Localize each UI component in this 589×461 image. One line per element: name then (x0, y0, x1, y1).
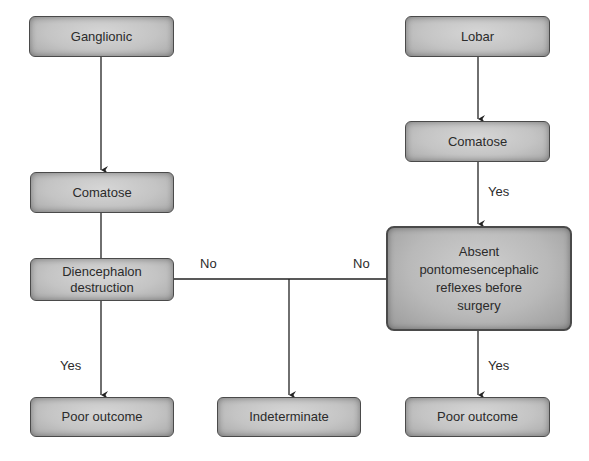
edge-label-absent-yes: Yes (488, 358, 509, 373)
edge-label-diencephalon-no: No (200, 256, 217, 271)
node-absent-label-line3: reflexes before (436, 279, 522, 297)
node-diencephalon-destruction: Diencephalon destruction (30, 258, 174, 301)
node-absent-pontomesencephalic-reflexes: Absent pontomesencephalic reflexes befor… (386, 226, 572, 331)
edge-label-comatose-right-yes: Yes (488, 184, 509, 199)
node-ganglionic-label: Ganglionic (71, 29, 132, 45)
node-comatose-right-label: Comatose (448, 134, 507, 150)
node-comatose-left: Comatose (30, 172, 174, 213)
node-poor-outcome-right-label: Poor outcome (437, 409, 518, 425)
edge-label-diencephalon-yes: Yes (60, 358, 81, 373)
node-comatose-right: Comatose (405, 121, 550, 162)
node-poor-outcome-left-label: Poor outcome (62, 409, 143, 425)
node-absent-label-line2: pontomesencephalic (419, 261, 538, 279)
node-indeterminate: Indeterminate (217, 397, 361, 437)
node-comatose-left-label: Comatose (72, 185, 131, 201)
node-absent-label-line4: surgery (457, 297, 500, 315)
node-poor-outcome-left: Poor outcome (30, 397, 174, 437)
node-absent-label-line1: Absent (459, 243, 499, 261)
node-diencephalon-label-line1: Diencephalon (62, 264, 142, 280)
node-poor-outcome-right: Poor outcome (405, 397, 550, 437)
node-lobar-label: Lobar (461, 29, 494, 45)
node-lobar: Lobar (405, 16, 550, 57)
node-diencephalon-label-line2: destruction (70, 280, 134, 296)
node-ganglionic: Ganglionic (29, 16, 174, 57)
edge-label-absent-no: No (353, 256, 370, 271)
node-indeterminate-label: Indeterminate (249, 409, 329, 425)
